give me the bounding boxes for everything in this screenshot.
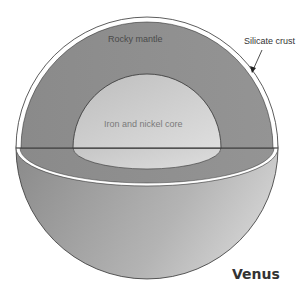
core-label: Iron and nickel core [104, 119, 183, 129]
crust-pointer-line [253, 50, 262, 70]
crust-label: Silicate crust [244, 36, 295, 46]
planet-title: Venus [232, 266, 280, 282]
mantle-label: Rocky mantle [108, 34, 163, 44]
